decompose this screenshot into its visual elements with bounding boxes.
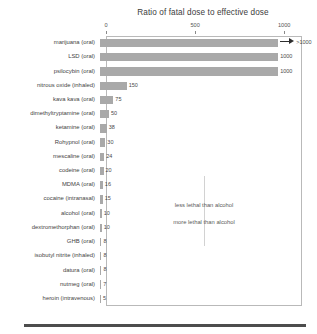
bar-value-label: 150 [129,83,138,89]
bar-zone: 8 [100,249,296,263]
bar-row: psilocybin (oral)1000 [0,64,317,78]
category-label: codeine (oral) [0,168,100,174]
annotation-less-lethal: less lethal than alcohol [175,202,234,208]
bar-row: heroin (intravenous)5 [0,292,317,306]
bar-zone: 50 [100,107,296,121]
category-label: datura (oral) [0,268,100,274]
bar-value-label: 38 [109,125,115,131]
bar [100,252,101,260]
bar-value-label: 75 [115,97,121,103]
bar-zone: 150 [100,79,296,93]
category-label: kava kava (oral) [0,97,100,103]
bar-zone: 20 [100,164,296,178]
bar [100,82,127,90]
bar-value-label: 15 [105,196,111,202]
bar-row: GHB (oral)8 [0,235,317,249]
bar-zone: 30 [100,135,296,149]
bar-row: nitrous oxide (inhaled)150 [0,79,317,93]
bar [100,167,104,175]
bar-value-label: 8 [103,239,106,245]
bar [100,181,103,189]
bar-zone: 8 [100,235,296,249]
bar [100,153,104,161]
alcohol-threshold-divider [204,176,205,246]
bar-zone: 16 [100,178,296,192]
bar-zone: 38 [100,121,296,135]
category-label: MDMA (oral) [0,182,100,188]
category-label: cocaine (intranasal) [0,196,100,202]
x-tick-label: 1000 [278,22,290,28]
bar [100,209,102,217]
bar-value-label: 5 [103,296,106,302]
x-tick-mark [284,31,285,34]
bar-row: mescaline (oral)24 [0,150,317,164]
bar-row: Rohypnol (oral)30 [0,135,317,149]
bar-row: datura (oral)8 [0,263,317,277]
bar-zone: 75 [100,93,296,107]
category-label: dimethyltryptamine (oral) [0,111,100,117]
bar [100,67,278,75]
bar-value-label: 50 [111,111,117,117]
bar-value-label: 30 [107,140,113,146]
bar-value-label: 10 [104,225,110,231]
x-axis: 05001000 [106,22,302,36]
bar-value-label: 24 [106,154,112,160]
category-label: dextromethorphan (oral) [0,225,100,231]
bar-zone: 1000 [100,64,296,78]
overflow-arrow-icon [280,40,294,42]
bar-value-label: 8 [103,253,106,259]
bar-row: ketamine (oral)38 [0,121,317,135]
bar-value-label: 10 [104,211,110,217]
bar [100,195,103,203]
bar-row: dextromethorphan (oral)10 [0,221,317,235]
bar [100,53,278,61]
x-tick-label: 500 [190,22,199,28]
bar [100,266,101,274]
bar [100,280,101,288]
category-label: isobutyl nitrite (inhaled) [0,253,100,259]
bar-zone: 8 [100,263,296,277]
chart-page: Ratio of fatal dose to effective dose 05… [0,0,317,334]
annotation-more-lethal: more lethal than alcohol [173,219,235,225]
bar-value-label: >1000 [296,40,311,46]
x-tick-label: 0 [104,22,107,28]
bottom-rule [24,324,306,327]
bar-zone: 1000 [100,50,296,64]
bar-row: MDMA (oral)16 [0,178,317,192]
bar-row: LSD (oral)1000 [0,50,317,64]
category-label: nitrous oxide (inhaled) [0,83,100,89]
x-tick-mark [106,31,107,34]
bar-value-label: 7 [103,282,106,288]
bar [100,238,101,246]
bar [100,138,105,146]
bar-value-label: 16 [105,182,111,188]
bar-value-label: 8 [103,267,106,273]
category-label: Rohypnol (oral) [0,140,100,146]
category-label: nutmeg (oral) [0,282,100,288]
bar-row: marijuana (oral)>1000 [0,36,317,50]
bar-value-label: 20 [106,168,112,174]
category-label: psilocybin (oral) [0,69,100,75]
category-label: marijuana (oral) [0,40,100,46]
category-label: GHB (oral) [0,239,100,245]
bar-value-label: 1000 [280,54,292,60]
category-label: mescaline (oral) [0,154,100,160]
bar-row: alcohol (oral)10 [0,207,317,221]
bar-row: isobutyl nitrite (inhaled)8 [0,249,317,263]
bar [100,295,101,303]
bar-row: cocaine (intranasal)15 [0,192,317,206]
bar [100,110,109,118]
bar-row: nutmeg (oral)7 [0,278,317,292]
bar [100,224,102,232]
bar-value-label: 1000 [280,69,292,75]
x-tick-mark [195,31,196,34]
category-label: LSD (oral) [0,54,100,60]
bar-rows: marijuana (oral)>1000LSD (oral)1000psilo… [0,36,317,306]
category-label: alcohol (oral) [0,211,100,217]
bar-row: dimethyltryptamine (oral)50 [0,107,317,121]
bar-row: kava kava (oral)75 [0,93,317,107]
chart-title: Ratio of fatal dose to effective dose [96,8,310,17]
bar [100,96,113,104]
bar-zone: 7 [100,278,296,292]
bar-zone: 24 [100,150,296,164]
